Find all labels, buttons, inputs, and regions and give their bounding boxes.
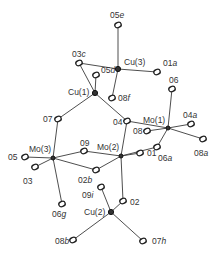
atom-o3c [75,59,83,66]
atom-o6 [168,85,176,92]
crystal-structure-diagram [0,0,220,258]
atom-o5d [92,71,100,78]
atom-mo1 [166,126,170,130]
label-o4: 04 [113,118,122,127]
label-mo3: Mo(3) [29,145,51,154]
label-o5d: 05d [101,66,115,75]
label-o7h: 07h [152,237,166,246]
label-o4a: 04a [183,111,197,120]
atom-o8a [199,135,207,142]
atom-o2 [119,197,127,204]
atom-cu2 [108,209,113,214]
bond-Cu3-O1a [118,69,157,72]
bond-Mo3-O5 [25,157,53,158]
atom-o6g [58,200,66,207]
label-o6: 06 [169,76,178,85]
atom-o1 [136,149,144,156]
label-o6a: 06a [158,154,172,163]
atom-layer [21,21,207,244]
bond-Mo3-O6g [53,158,62,204]
label-o8b: 08b [55,237,69,246]
atom-o9i [97,183,105,190]
bond-Mo3-O7 [53,119,58,158]
label-o5e: 05e [110,11,124,20]
atom-o8f [108,94,116,101]
label-o9: 09 [80,139,89,148]
bond-Mo2-O2 [121,156,123,201]
atom-mo3 [51,156,55,160]
label-cu2: Cu(2) [84,208,105,217]
atom-o5e [114,21,122,28]
label-mo2: Mo(2) [97,143,119,152]
atom-o1a [153,68,161,75]
label-o8: 08 [133,127,142,136]
bond-Cu2-O7h [111,212,143,241]
label-cu1: Cu(1) [68,88,89,97]
label-o8f: 08f [118,94,130,103]
label-o7: 07 [43,115,52,124]
label-o2b: 02b [78,176,92,185]
label-o8a: 08a [194,149,208,158]
label-cu3: Cu(3) [124,58,145,67]
bond-Mo3-O2b [53,158,96,170]
label-o3c: 03c [72,50,86,59]
label-o1: 01 [147,149,156,158]
label-o3: 03 [23,177,32,186]
label-o2: 02 [130,198,139,207]
label-o1a: 01a [163,59,177,68]
bond-Mo1-O6 [168,89,172,128]
atom-o3 [31,163,39,170]
atom-o5 [21,153,29,160]
bond-Mo3-O9 [53,151,84,158]
label-mo1: Mo(1) [143,116,165,125]
label-o6g: 06g [52,210,66,219]
atom-o7 [54,115,62,122]
atom-mo2 [119,154,123,158]
atom-o8 [143,127,151,134]
atom-o4a [187,120,195,127]
bond-Mo2-O2b [96,156,121,170]
atom-o2b [92,166,100,173]
atom-cu1 [92,90,97,95]
atom-o9 [80,147,88,154]
label-o5: 05 [8,153,17,162]
atom-o8b [69,236,77,243]
label-o9i: 09i [82,191,93,200]
atom-cu3 [115,66,120,71]
bond-Mo1-O8a [168,128,203,139]
